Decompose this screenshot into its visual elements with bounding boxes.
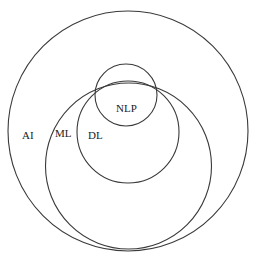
venn-diagram: AI ML DL NLP	[0, 0, 259, 261]
ml-label: ML	[55, 127, 72, 139]
dl-label: DL	[88, 129, 103, 141]
diagram-canvas: AI ML DL NLP	[0, 0, 259, 261]
nlp-circle	[95, 64, 157, 126]
ai-label: AI	[22, 129, 34, 141]
nlp-label: NLP	[116, 102, 137, 114]
ai-circle	[8, 11, 248, 251]
